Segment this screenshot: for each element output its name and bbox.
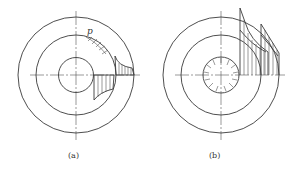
stress-distribution-inner-a	[94, 75, 114, 100]
panel-b	[163, 8, 285, 140]
pressure-arrows-a	[86, 37, 108, 54]
diagram-canvas: p	[0, 0, 289, 174]
caption-a: (a)	[68, 151, 79, 160]
pressure-symbol-p: p	[87, 26, 93, 36]
stress-distribution-outer-a	[115, 56, 134, 75]
caption-b: (b)	[209, 151, 220, 160]
panel-a: p	[18, 11, 140, 140]
